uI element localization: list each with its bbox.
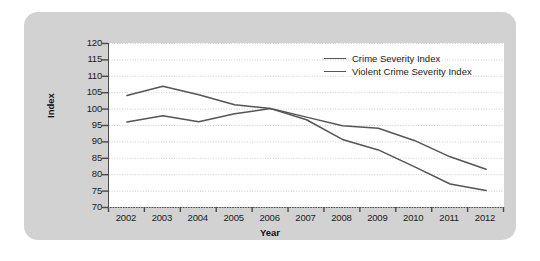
x-axis-tick-label: 2010 [393,212,433,223]
x-axis-tick-labels: 2002200320042005200620072008200920102011… [24,212,516,228]
legend-line-swatch-crime-severity-index [324,58,346,59]
x-axis-tick-label: 2006 [250,212,290,223]
legend-label: Violent Crime Severity Index [352,66,472,77]
x-axis-tick-label: 2002 [106,212,146,223]
axis-ticks [24,12,516,240]
x-axis-tick-label: 2008 [321,212,361,223]
x-axis-tick-label: 2003 [142,212,182,223]
x-axis-tick-label: 2007 [286,212,326,223]
legend-item: Crime Severity Index [324,52,472,65]
x-axis-title: Year [24,227,516,238]
x-axis-tick-label: 2009 [357,212,397,223]
legend-label: Crime Severity Index [352,53,440,64]
chart-figure-panel: 120115110105100959085807570 Index 200220… [24,12,516,240]
chart-legend: Crime Severity Index Violent Crime Sever… [324,52,472,78]
x-axis-tick-label: 2012 [465,212,505,223]
x-axis-tick-label: 2004 [178,212,218,223]
x-axis-tick-label: 2011 [429,212,469,223]
x-axis-tick-label: 2005 [214,212,254,223]
legend-line-swatch-violent-crime-severity-index [324,71,346,72]
legend-item: Violent Crime Severity Index [324,65,472,78]
